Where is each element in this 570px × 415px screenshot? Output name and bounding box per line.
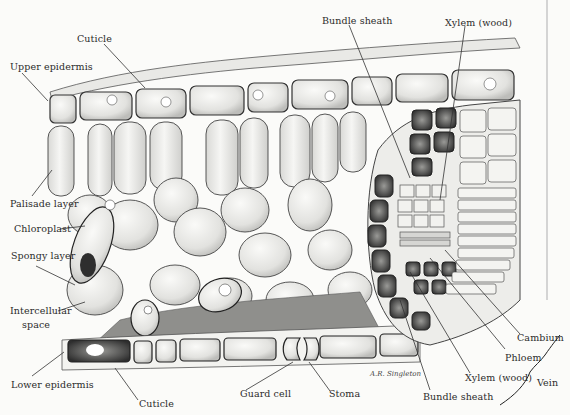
phloem-cambium-cells [398, 185, 450, 246]
label-intercellular-space-line2: space [22, 319, 50, 330]
label-spongy-layer: Spongy layer [11, 250, 75, 261]
label-cuticle-top: Cuticle [77, 33, 112, 44]
label-stoma: Stoma [329, 388, 360, 399]
label-vein: Vein [537, 377, 558, 388]
artist-signature: A.R. Singleton [370, 370, 421, 378]
label-phloem: Phloem [505, 352, 542, 363]
label-cuticle-bottom: Cuticle [139, 398, 174, 409]
label-bundle-sheath-top: Bundle sheath [322, 15, 393, 26]
label-cambium: Cambium [517, 332, 564, 343]
label-palisade-layer: Palisade layer [10, 198, 79, 209]
label-xylem-top: Xylem (wood) [445, 17, 512, 28]
label-chloroplast: Chloroplast [14, 223, 71, 234]
label-guard-cell: Guard cell [240, 388, 291, 399]
label-intercellular-space-line1: Intercellular [10, 305, 72, 316]
label-upper-epidermis: Upper epidermis [10, 61, 93, 72]
label-bundle-sheath-bottom: Bundle sheath [423, 391, 494, 402]
label-xylem-bottom: Xylem (wood) [465, 372, 532, 383]
label-lower-epidermis: Lower epidermis [11, 379, 94, 390]
vein-curve [500, 335, 560, 405]
